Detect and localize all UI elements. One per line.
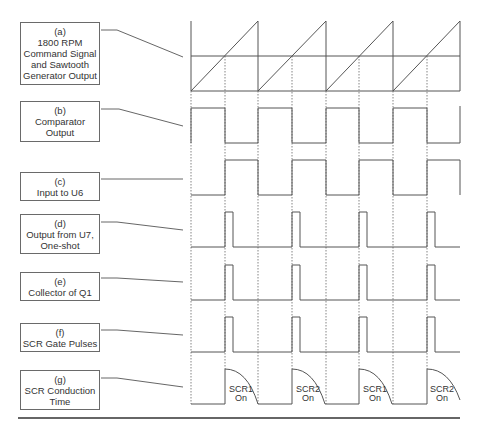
leader-line-b: [101, 109, 183, 126]
label-box-d: (d) Output from U7, One-shot: [20, 214, 100, 254]
label-line: Input to U6: [37, 187, 83, 198]
label-line: SCR Conduction: [25, 385, 96, 396]
scr-label-state: On: [430, 394, 454, 403]
label-tag: (a): [54, 26, 66, 37]
label-line: and Sawtooth: [31, 59, 89, 70]
label-line: 1800 RPM: [38, 37, 83, 48]
leader-lines: [101, 30, 183, 387]
scr-label-3: SCR1 On: [363, 385, 387, 403]
leader-line-f: [101, 330, 183, 335]
input-u6-wave: [191, 160, 460, 195]
label-line: Collector of Q1: [28, 287, 91, 298]
label-line: Comparator: [35, 116, 85, 127]
label-box-f: (f) SCR Gate Pulses: [20, 323, 100, 352]
leader-line-g: [101, 378, 183, 387]
label-tag: (e): [54, 276, 66, 287]
label-tag: (b): [54, 105, 66, 116]
label-tag: (f): [56, 327, 65, 338]
leader-line-e: [101, 278, 183, 282]
label-line: Time: [50, 396, 71, 407]
label-line: Output: [46, 127, 75, 138]
scr-label-state: On: [296, 394, 320, 403]
label-tag: (d): [54, 218, 66, 229]
scr-label-state: On: [363, 394, 387, 403]
scr-label-state: On: [229, 394, 253, 403]
one-shot-wave: [191, 212, 460, 247]
label-line: Output from U7,: [26, 229, 94, 240]
label-line: SCR Gate Pulses: [23, 338, 97, 349]
scr-label-4: SCR2 On: [430, 385, 454, 403]
label-line: Command Signal: [24, 48, 97, 59]
label-box-c: (c) Input to U6: [20, 172, 100, 201]
label-tag: (g): [54, 374, 66, 385]
label-box-b: (b) Comparator Output: [20, 101, 100, 142]
scr-label-2: SCR2 On: [296, 385, 320, 403]
leader-line-d: [101, 222, 183, 230]
scr-gate-wave: [191, 317, 460, 352]
label-box-e: (e) Collector of Q1: [20, 272, 100, 301]
leader-line-a: [101, 30, 183, 57]
label-tag: (c): [54, 176, 65, 187]
label-line: Generator Output: [23, 70, 97, 81]
label-box-g: (g) SCR Conduction Time: [20, 370, 100, 410]
comparator-wave: [191, 106, 460, 143]
collector-q1-wave: [191, 265, 460, 300]
label-box-a: (a) 1800 RPM Command Signal and Sawtooth…: [20, 22, 100, 85]
waveforms: [191, 21, 460, 404]
label-line: One-shot: [40, 240, 79, 251]
scr-label-1: SCR1 On: [229, 385, 253, 403]
